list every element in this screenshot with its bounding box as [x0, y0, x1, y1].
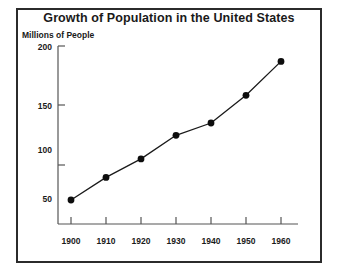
chart-figure: Growth of Population in the United State…	[0, 0, 345, 275]
data-point-1920	[138, 156, 145, 163]
data-point-1910	[103, 174, 110, 181]
data-point-1930	[173, 132, 180, 139]
data-point-1900	[68, 197, 75, 204]
x-tick-marks	[71, 217, 281, 224]
data-point-1940	[208, 120, 215, 127]
plot-area	[0, 0, 345, 275]
data-line	[71, 61, 281, 200]
data-point-1950	[243, 92, 250, 99]
y-tick-marks	[58, 46, 65, 165]
data-point-1960	[278, 58, 285, 65]
